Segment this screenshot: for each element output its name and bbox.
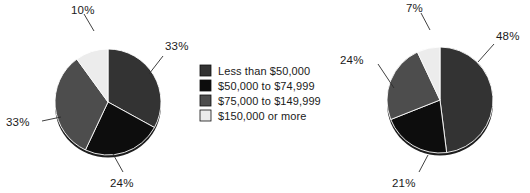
legend-label-150000-or-more: $150,000 or more — [218, 110, 306, 122]
legend-swatch-50000-to-74999 — [200, 80, 211, 91]
right-leader-top — [421, 13, 430, 30]
right-leader-right — [478, 44, 494, 62]
charts-svg: 10% 33% 24% 33% Less than $50,000 $50,00… — [0, 0, 530, 193]
legend-swatch-less-than-50000 — [200, 65, 211, 76]
right-leader-left — [378, 64, 394, 88]
legend-swatch-75000-to-149999 — [200, 95, 211, 106]
legend-item-1[interactable]: $50,000 to $74,999 — [200, 80, 315, 92]
legend-label-75000-to-149999: $75,000 to $149,999 — [218, 95, 321, 107]
left-leader-right — [149, 56, 163, 74]
left-pie-chart: 10% 33% 24% 33% — [6, 4, 189, 189]
pie-chart-figure: 10% 33% 24% 33% Less than $50,000 $50,00… — [0, 0, 530, 193]
legend: Less than $50,000 $50,000 to $74,999 $75… — [200, 65, 321, 122]
legend-item-2[interactable]: $75,000 to $149,999 — [200, 95, 321, 107]
right-pct-label-bottom: 21% — [392, 177, 416, 189]
right-pct-label-left: 24% — [340, 54, 364, 66]
legend-label-less-than-50000: Less than $50,000 — [218, 65, 310, 77]
left-pct-label-right: 33% — [165, 40, 189, 52]
legend-swatch-150000-or-more — [200, 110, 211, 121]
right-pct-label-right: 48% — [496, 30, 520, 42]
right-leader-bottom — [419, 155, 428, 172]
left-pct-label-left: 33% — [6, 116, 30, 128]
left-leader-bottom — [113, 154, 123, 172]
legend-item-0[interactable]: Less than $50,000 — [200, 65, 310, 77]
right-pie-wedge-less-than-50000 — [440, 47, 493, 153]
left-leader-top — [84, 14, 94, 31]
legend-item-3[interactable]: $150,000 or more — [200, 110, 306, 122]
legend-label-50000-to-74999: $50,000 to $74,999 — [218, 80, 315, 92]
right-pie-chart: 7% 48% 21% 24% — [340, 2, 520, 189]
left-pct-label-top: 10% — [71, 4, 95, 16]
right-pct-label-top: 7% — [406, 2, 423, 14]
left-pct-label-bottom: 24% — [110, 177, 134, 189]
